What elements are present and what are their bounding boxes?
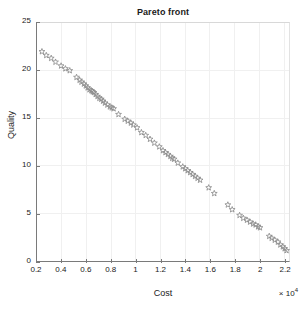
y-tick-mark (36, 262, 40, 263)
x-tick-mark (61, 259, 62, 263)
y-tick-mark (36, 214, 40, 215)
y-axis-label: Quality (6, 95, 16, 155)
y-tick-mark (36, 22, 40, 23)
x-tick-mark (136, 259, 137, 263)
x-tick-label: 0.4 (55, 265, 66, 274)
x-tick-label: 1.2 (155, 265, 166, 274)
plot-area (36, 22, 290, 262)
x-tick-label: 2 (258, 265, 262, 274)
x-tick-mark (235, 259, 236, 263)
x-tick-label: 0.6 (80, 265, 91, 274)
x-tick-label: 1.4 (180, 265, 191, 274)
x-axis-exponent-label: × 104 (279, 289, 298, 298)
chart-title: Pareto front (36, 7, 290, 17)
x-tick-mark (161, 259, 162, 263)
x-tick-label: 1.6 (205, 265, 216, 274)
x-tick-mark (210, 259, 211, 263)
x-tick-label: 1 (133, 265, 137, 274)
x-tick-mark (86, 259, 87, 263)
x-axis-label: Cost (36, 288, 290, 298)
x-tick-label: 1.8 (230, 265, 241, 274)
x-tick-mark (260, 259, 261, 263)
x-tick-mark (185, 259, 186, 263)
x-tick-label: 0.2 (30, 265, 41, 274)
exponent-power: 4 (295, 287, 298, 293)
x-tick-mark (111, 259, 112, 263)
x-tick-label: 2.2 (279, 265, 290, 274)
exponent-base: × 10 (279, 289, 295, 298)
scatter-series-pareto-front (37, 23, 289, 261)
y-tick-mark (36, 166, 40, 167)
chart-figure: Pareto front 0.20.40.60.811.21.41.61.822… (0, 0, 306, 317)
y-tick-mark (36, 118, 40, 119)
x-tick-mark (285, 259, 286, 263)
y-tick-mark (36, 70, 40, 71)
x-tick-label: 0.8 (105, 265, 116, 274)
